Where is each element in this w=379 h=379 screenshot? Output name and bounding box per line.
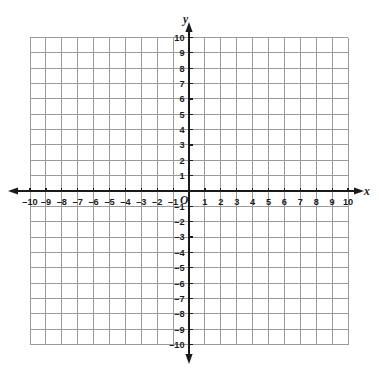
x-axis-negative-arrowhead xyxy=(8,187,18,194)
y-tick-label: 1 xyxy=(179,171,184,181)
y-tick-label: 7 xyxy=(179,79,184,89)
x-tick-label: 8 xyxy=(314,197,319,207)
coordinate-plane-figure: –10–9–8–7–6–5–4–3–2–11234567891010987654… xyxy=(0,0,379,379)
x-tick-label: 7 xyxy=(298,197,303,207)
y-tick-label: –8 xyxy=(174,309,184,319)
y-tick-label: 2 xyxy=(179,156,184,166)
origin-label: O xyxy=(180,194,188,206)
x-axis-positive-arrowhead xyxy=(354,187,364,194)
y-tick-label: –10 xyxy=(169,340,184,350)
y-tick-label: 4 xyxy=(179,125,185,135)
y-tick-label: 5 xyxy=(179,110,184,120)
x-tick-label: 1 xyxy=(202,197,207,207)
x-tick-label: –9 xyxy=(41,197,51,207)
x-tick-label: –3 xyxy=(136,197,146,207)
x-tick-label: 2 xyxy=(218,197,223,207)
x-tick-label: 4 xyxy=(250,197,256,207)
y-tick-label: –7 xyxy=(174,294,184,304)
y-tick-label: 10 xyxy=(174,33,184,43)
y-tick-label: –5 xyxy=(174,263,184,273)
x-tick-label: –8 xyxy=(57,197,67,207)
x-tick-label: 6 xyxy=(282,197,287,207)
x-tick-label: 9 xyxy=(330,197,335,207)
y-tick-label: –3 xyxy=(174,232,184,242)
y-tick-label: –2 xyxy=(174,217,184,227)
x-tick-label: –6 xyxy=(88,197,98,207)
y-tick-label: 6 xyxy=(179,94,184,104)
y-tick-label: 8 xyxy=(179,64,184,74)
x-axis-label: x xyxy=(363,185,370,197)
x-tick-label: –5 xyxy=(104,197,114,207)
y-axis-label: y xyxy=(181,13,189,26)
x-tick-label: 5 xyxy=(266,197,271,207)
coordinate-grid-svg: –10–9–8–7–6–5–4–3–2–11234567891010987654… xyxy=(0,0,379,379)
axis-names-group: x y O xyxy=(180,13,370,206)
y-tick-label: –9 xyxy=(174,325,184,335)
y-tick-label: 9 xyxy=(179,48,184,58)
x-tick-label: –2 xyxy=(152,197,162,207)
x-tick-label: 10 xyxy=(343,197,353,207)
y-tick-label: 3 xyxy=(179,140,184,150)
x-tick-label: 3 xyxy=(234,197,239,207)
y-tick-label: –6 xyxy=(174,279,184,289)
x-tick-label: –10 xyxy=(22,197,37,207)
y-tick-label: –4 xyxy=(174,248,185,258)
x-tick-label: –4 xyxy=(120,197,131,207)
y-axis-negative-arrowhead xyxy=(185,354,192,364)
x-tick-label: –7 xyxy=(73,197,83,207)
